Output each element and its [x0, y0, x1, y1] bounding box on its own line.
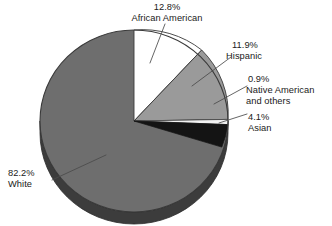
- pie-top-face: [40, 30, 228, 212]
- pie-chart-graphic: [0, 0, 332, 226]
- slice-percent-asian: 4.1%: [248, 112, 272, 123]
- slice-name-hispanic: Hispanic: [226, 51, 262, 62]
- slice-percent-hispanic: 11.9%: [232, 40, 262, 51]
- slice-percent-african-american: 12.8%: [112, 2, 222, 13]
- slice-name-african-american: African American: [112, 13, 222, 24]
- slice-name-native-american-line1: Native American: [246, 85, 314, 96]
- slice-name-native-american-line2: and others: [246, 96, 314, 107]
- slice-label-hispanic: 11.9% Hispanic: [226, 40, 262, 62]
- pie-chart: 12.8% African American 11.9% Hispanic 0.…: [0, 0, 332, 226]
- slice-percent-white: 82.2%: [8, 168, 35, 179]
- slice-label-white: 82.2% White: [8, 168, 35, 190]
- slice-name-white: White: [8, 179, 35, 190]
- slice-label-asian: 4.1% Asian: [248, 112, 272, 134]
- slice-percent-native-american: 0.9%: [248, 74, 314, 85]
- slice-label-native-american: 0.9% Native American and others: [246, 74, 314, 108]
- slice-label-african-american: 12.8% African American: [112, 2, 222, 24]
- slice-name-asian: Asian: [248, 123, 272, 134]
